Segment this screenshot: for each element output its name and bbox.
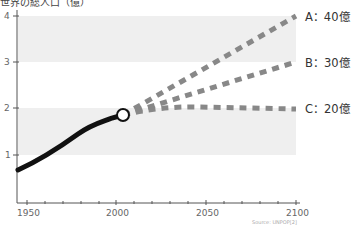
scenario-c-label: C：20億 xyxy=(305,102,351,116)
x-tick-2100: 2100 xyxy=(286,208,309,218)
x-tick-1950: 1950 xyxy=(17,208,40,218)
y-tick-4: 4 xyxy=(4,11,10,21)
x-tick-2050: 2050 xyxy=(196,208,219,218)
y-tick-3: 3 xyxy=(4,57,10,67)
band-3-4 xyxy=(18,16,296,62)
x-tick-2000: 2000 xyxy=(106,208,129,218)
current-point-marker xyxy=(117,109,129,121)
population-chart: 4 3 2 1 1950 2000 2050 2100 A：40億 B：30億 … xyxy=(0,0,354,228)
y-tick-2: 2 xyxy=(4,103,10,113)
scenario-a-label: A：40億 xyxy=(305,10,351,24)
scenario-b-label: B：30億 xyxy=(305,56,351,70)
y-tick-1: 1 xyxy=(5,150,11,160)
source-label: Source: UNPOP[2] xyxy=(252,219,297,225)
